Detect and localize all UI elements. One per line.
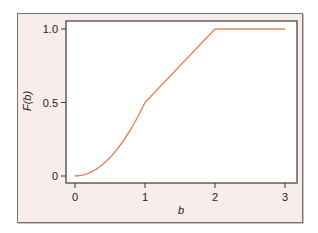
y-axis: 00.51.0 [43, 23, 66, 182]
x-axis: 0123 [72, 183, 288, 203]
x-tick-label: 1 [142, 191, 148, 203]
x-tick-label: 3 [282, 191, 288, 203]
y-tick-label: 0.5 [43, 97, 58, 109]
x-tick-label: 0 [72, 191, 78, 203]
y-tick-label: 0 [52, 170, 58, 182]
cdf-chart: 0123 00.51.0 b F(b) [0, 0, 318, 233]
x-axis-title: b [178, 204, 184, 216]
x-tick-label: 2 [212, 191, 218, 203]
y-axis-title: F(b) [21, 91, 33, 112]
y-tick-label: 1.0 [43, 23, 58, 35]
plot-area [66, 21, 297, 183]
